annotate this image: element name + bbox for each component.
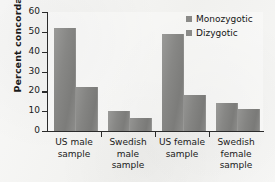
legend-label-monozygotic: Monozygotic xyxy=(196,14,253,24)
bar-monozygotic-group-0 xyxy=(54,28,76,131)
y-tick-40 xyxy=(42,52,47,53)
legend-label-dizygotic: Dizygotic xyxy=(196,28,238,38)
legend-swatch-monozygotic xyxy=(186,16,192,22)
legend-item-dizygotic[interactable]: Dizygotic xyxy=(186,26,253,39)
bar-dizygotic-group-3 xyxy=(238,109,260,131)
x-label-group-2: US femalesample xyxy=(155,137,209,160)
y-tick-10 xyxy=(42,111,47,112)
y-tick-label-30: 30 xyxy=(14,66,40,76)
x-label-line: female xyxy=(209,149,263,161)
x-label-line: sample xyxy=(155,149,209,161)
y-tick-label-40: 40 xyxy=(14,46,40,56)
x-label-group-3: Swedishfemalesample xyxy=(209,137,263,172)
x-label-line: Swedish xyxy=(101,137,155,149)
y-tick-label-60: 60 xyxy=(14,6,40,16)
bar-dizygotic-group-1 xyxy=(130,118,152,131)
y-tick-label-50: 50 xyxy=(14,26,40,36)
x-label-group-1: Swedishmalesample xyxy=(101,137,155,172)
x-label-line: sample xyxy=(47,149,101,161)
y-tick-30 xyxy=(42,72,47,73)
y-tick-60 xyxy=(42,12,47,13)
x-label-line: sample xyxy=(209,160,263,172)
legend-swatch-dizygotic xyxy=(186,30,192,36)
legend-item-monozygotic[interactable]: Monozygotic xyxy=(186,12,253,25)
y-tick-label-10: 10 xyxy=(14,105,40,115)
y-tick-20 xyxy=(42,91,47,92)
y-tick-50 xyxy=(42,32,47,33)
y-tick-0 xyxy=(42,131,47,132)
bar-monozygotic-group-1 xyxy=(108,111,130,131)
bar-monozygotic-group-3 xyxy=(216,103,238,131)
bar-monozygotic-group-2 xyxy=(162,34,184,131)
x-label-line: Swedish xyxy=(209,137,263,149)
y-tick-label-0: 0 xyxy=(14,125,40,135)
bar-dizygotic-group-2 xyxy=(184,95,206,131)
bar-chart-figure: Percent concordance 0102030405060 Monozy… xyxy=(0,0,275,182)
x-label-line: US male xyxy=(47,137,101,149)
x-label-line: sample xyxy=(101,160,155,172)
x-label-line: male xyxy=(101,149,155,161)
x-axis-category-labels: US malesampleSwedishmalesampleUS females… xyxy=(47,137,264,182)
chart-legend: Monozygotic Dizygotic xyxy=(186,12,253,40)
bar-dizygotic-group-0 xyxy=(76,87,98,131)
x-label-line: US female xyxy=(155,137,209,149)
x-label-group-0: US malesample xyxy=(47,137,101,160)
y-tick-label-20: 20 xyxy=(14,85,40,95)
